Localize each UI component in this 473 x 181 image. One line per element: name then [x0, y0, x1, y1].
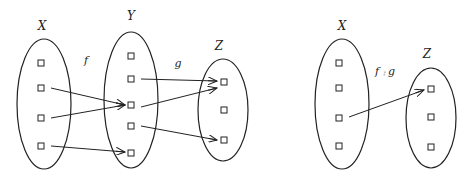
set-element [336, 85, 342, 91]
mapping-arrow [51, 105, 125, 118]
mapping-arrow [141, 88, 217, 107]
function-label-f-compose-g: f ⨾ g [374, 65, 395, 78]
set-element [221, 137, 227, 143]
set-element [428, 114, 434, 120]
mapping-arrow [51, 88, 125, 105]
set-element [428, 144, 434, 150]
set-element [128, 102, 134, 108]
set-element [38, 143, 44, 149]
mapping-arrow [141, 126, 217, 140]
set-element [336, 60, 342, 66]
mapping-arrow [141, 79, 217, 81]
mapping-arrow [349, 90, 424, 117]
set-element [38, 115, 44, 121]
set-element [221, 79, 227, 85]
set-z-label: Z [422, 47, 432, 61]
function-label-f: f [83, 54, 90, 67]
set-element [221, 107, 227, 113]
set-element [128, 123, 134, 129]
set-y-label: Y [127, 9, 136, 23]
set-element [336, 143, 342, 149]
function-label-g: g [174, 57, 181, 70]
set-z-label: Z [214, 39, 224, 53]
set-element [428, 86, 434, 92]
set-element [128, 150, 134, 156]
set-element [128, 76, 134, 82]
left-diagram: XYZfg [17, 9, 248, 169]
set-x-label: X [37, 19, 47, 33]
right-diagram: XZf ⨾ g [315, 19, 456, 169]
function-composition-diagram: XYZfg XZf ⨾ g [0, 0, 473, 181]
set-x-label: X [337, 19, 347, 33]
set-y-ellipse [104, 32, 158, 168]
set-element [38, 60, 44, 66]
set-element [38, 85, 44, 91]
set-element [128, 53, 134, 59]
set-element [336, 115, 342, 121]
